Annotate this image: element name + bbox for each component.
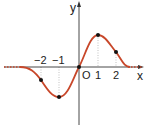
- tick-label-2: 2: [113, 70, 119, 81]
- origin-label: O: [82, 70, 91, 81]
- y-arrow-icon: [77, 1, 81, 7]
- function-curve: [20, 35, 130, 97]
- tick-label-neg1: −1: [52, 55, 65, 66]
- x-axis-label: x: [137, 70, 143, 82]
- function-graph: [0, 0, 149, 128]
- y-axis-label: y: [70, 2, 76, 14]
- marked-points: [39, 33, 118, 99]
- tick-label-1: 1: [95, 70, 101, 81]
- tick-label-neg2: −2: [34, 55, 47, 66]
